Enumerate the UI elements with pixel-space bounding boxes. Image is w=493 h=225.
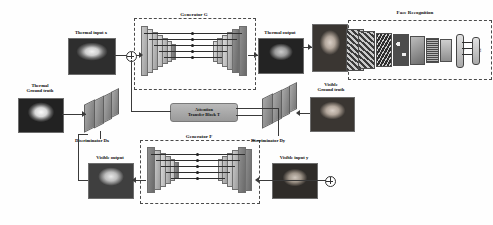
arrow-to-disc-x <box>82 111 86 117</box>
visible-ground-truth-thumbnail <box>310 97 355 132</box>
gen-f-bottleneck <box>174 162 179 178</box>
arrow-to-visible-output <box>132 177 136 183</box>
discriminator-x-network <box>84 88 128 134</box>
recognition-input-face <box>313 25 347 71</box>
disc-x-slab-4 <box>111 88 119 118</box>
gen-f-skip-node-4 <box>196 171 199 174</box>
conn-disc-y-vertical <box>278 108 279 136</box>
thermal-output-face <box>259 39 303 73</box>
arrow-to-thermal-output <box>254 52 258 58</box>
face-recognition-network: FC Output <box>344 24 492 76</box>
sum-node-right[interactable] <box>325 176 336 187</box>
conn-visible-output-to-disc-x-v <box>78 134 79 180</box>
conn-disc-x-vertical <box>100 131 101 139</box>
conn-recognition-face-to-network <box>346 47 350 48</box>
arrow-into-generator-g <box>139 52 143 58</box>
generator-g-label: Generator G <box>154 12 234 17</box>
gen-f-skip-node-3 <box>196 165 199 168</box>
gen-g-skip-node-4 <box>191 50 194 53</box>
gen-g-skip-node-3 <box>191 44 194 47</box>
generator-f-network <box>146 145 252 197</box>
fr-layer-pool3 <box>440 39 452 62</box>
thermal-input-label: Thermal input x <box>63 31 119 36</box>
thermal-input-face <box>69 39 115 74</box>
fr-layer-conv2 <box>393 34 409 66</box>
conn-cycle-left-vertical <box>131 60 132 112</box>
visible-input-thumbnail <box>272 163 318 199</box>
attention-transfer-block[interactable]: Attention Transfer Block T <box>170 103 238 122</box>
visible-output-face <box>89 164 133 198</box>
visible-ground-truth-face <box>311 98 354 131</box>
discriminator-x-label: Discriminator Dx <box>62 139 122 144</box>
discriminator-y-network <box>262 80 306 132</box>
conn-attention-to-right-2 <box>236 115 262 116</box>
arrow-to-disc-y <box>296 110 300 116</box>
architecture-diagram: Generator G Generator F <box>0 0 493 225</box>
conn-disc-x-stub <box>78 134 88 135</box>
thermal-ground-truth-label: Thermal Ground truth <box>13 84 67 94</box>
conn-cycle-left-to-attention <box>131 111 171 112</box>
arrow-to-recognition <box>308 44 312 50</box>
gen-g-skip-node-2 <box>191 38 194 41</box>
visible-output-thumbnail <box>88 163 134 199</box>
gen-f-skip-node-5 <box>196 177 199 180</box>
face-recognition-label: Face Recognition <box>370 10 460 15</box>
gen-f-skip-node-1 <box>196 153 199 156</box>
fr-output-label: Output <box>479 38 481 62</box>
fr-layer-conv1b <box>358 31 375 69</box>
conn-visible-output-to-disc-x-h <box>78 180 88 181</box>
visible-ground-truth-label: Visible Ground truth <box>303 83 359 93</box>
recognition-input-thumbnail <box>312 24 348 72</box>
disc-y-slab-4 <box>289 82 297 113</box>
fr-layer-pool2 <box>410 36 425 65</box>
generator-g-network <box>140 24 248 82</box>
visible-output-label: Visible output <box>84 156 136 161</box>
discriminator-y-label: Discriminator Dy <box>238 139 298 144</box>
visible-input-label: Visible input y <box>268 156 320 161</box>
thermal-output-thumbnail <box>258 38 304 74</box>
thermal-input-thumbnail <box>68 38 116 75</box>
thermal-ground-truth-face <box>19 99 63 132</box>
visible-input-face <box>273 164 317 198</box>
generator-f-label: Generator F <box>159 134 239 139</box>
fr-layer-conv3 <box>426 38 439 63</box>
gen-g-skip-node-1 <box>191 32 194 35</box>
gen-g-dec-5 <box>232 29 239 73</box>
gen-f-dec-6 <box>245 149 252 191</box>
fr-layer-pool1 <box>376 33 392 67</box>
conn-attention-to-right <box>236 108 278 109</box>
fr-fc-label: FC <box>463 36 465 64</box>
thermal-output-label: Thermal output <box>254 31 306 36</box>
gen-g-skip-node-5 <box>191 56 194 59</box>
conn-sum-right-to-generator-f <box>258 180 326 181</box>
thermal-ground-truth-thumbnail <box>18 98 64 133</box>
arrow-into-generator-f <box>255 177 259 183</box>
gen-f-skip-node-2 <box>196 159 199 162</box>
